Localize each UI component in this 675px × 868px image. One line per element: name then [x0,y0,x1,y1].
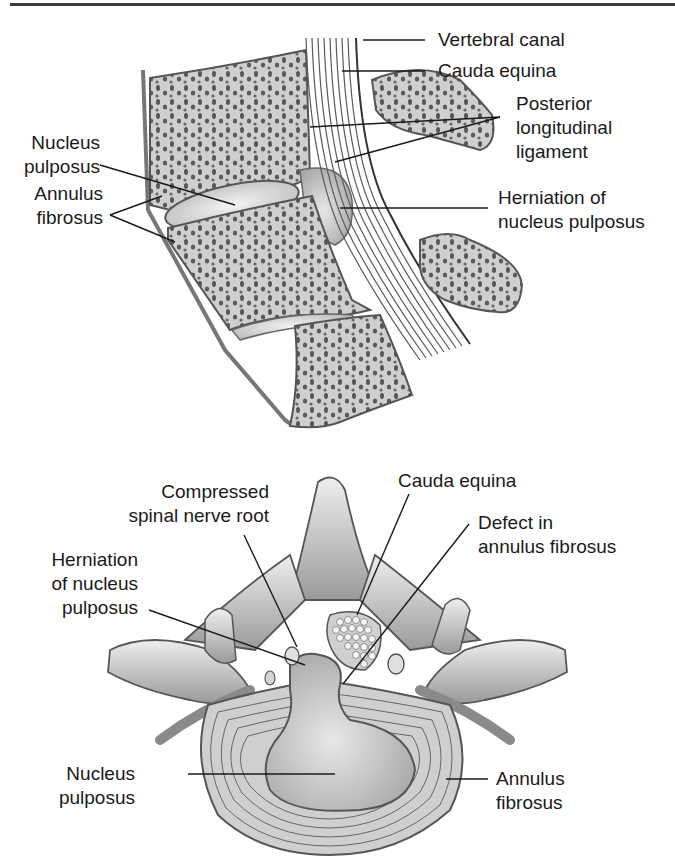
label-defect-1: Defect in [478,511,553,535]
label-posterior-longitudinal-ligament-1: Posterior [516,92,592,116]
label-defect-2: annulus fibrosus [478,535,616,559]
label-annulus-fibrosus-bottom-2: fibrosus [496,791,563,815]
label-nucleus-pulposus-top-1: Nucleus [0,131,100,155]
label-cauda-equina-top: Cauda equina [438,59,556,83]
sagittal-view [100,38,522,427]
label-posterior-longitudinal-ligament-2: longitudinal [516,116,612,140]
label-herniation-top-1: Herniation of [498,186,606,210]
label-herniation-bottom-2: of nucleus [8,572,138,596]
label-nucleus-pulposus-bottom-2: pulposus [15,786,135,810]
label-herniation-bottom-1: Herniation [8,548,138,572]
label-compressed-root-2: spinal nerve root [69,504,269,528]
label-posterior-longitudinal-ligament-3: ligament [516,140,588,164]
label-nucleus-pulposus-bottom-1: Nucleus [15,762,135,786]
label-annulus-fibrosus-top-2: fibrosus [3,206,103,230]
label-compressed-root-1: Compressed [69,480,269,504]
label-annulus-fibrosus-top-1: Annulus [3,182,103,206]
label-herniation-bottom-3: pulposus [8,596,138,620]
label-nucleus-pulposus-top-2: pulposus [0,155,100,179]
label-vertebral-canal: Vertebral canal [438,28,565,52]
label-herniation-top-2: nucleus pulposus [498,210,645,234]
label-cauda-equina-bottom: Cauda equina [398,469,516,493]
label-annulus-fibrosus-bottom-1: Annulus [496,767,565,791]
